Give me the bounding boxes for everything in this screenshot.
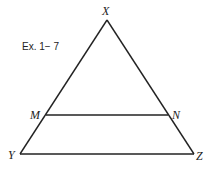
point-label-n: N <box>171 108 181 122</box>
point-label-m: M <box>29 108 41 122</box>
vertex-label-y: Y <box>8 148 16 162</box>
side-xz <box>107 20 194 154</box>
triangle-diagram: Ex. 1− 7 X M N Y Z <box>0 0 209 171</box>
exercise-caption: Ex. 1− 7 <box>22 41 59 52</box>
vertex-label-z: Z <box>196 149 203 163</box>
vertex-label-x: X <box>101 4 110 18</box>
